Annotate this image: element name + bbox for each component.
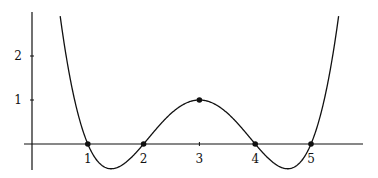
x-tick-labels: 12345 xyxy=(84,152,315,166)
data-point xyxy=(85,141,91,147)
y-tick-label: 2 xyxy=(14,49,22,63)
x-tick-label: 1 xyxy=(84,152,92,166)
x-tick-label: 3 xyxy=(196,152,204,166)
data-point xyxy=(252,141,258,147)
x-tick-label: 2 xyxy=(140,152,148,166)
tick-marks xyxy=(30,56,311,146)
data-point xyxy=(197,97,203,103)
y-tick-labels: 12 xyxy=(14,49,22,107)
data-point xyxy=(141,141,147,147)
marked-points xyxy=(85,97,314,147)
data-point xyxy=(308,141,314,147)
y-tick-label: 1 xyxy=(14,93,22,107)
x-tick-label: 4 xyxy=(251,152,259,166)
chart: 12345 12 xyxy=(0,0,378,178)
x-tick-label: 5 xyxy=(307,152,315,166)
